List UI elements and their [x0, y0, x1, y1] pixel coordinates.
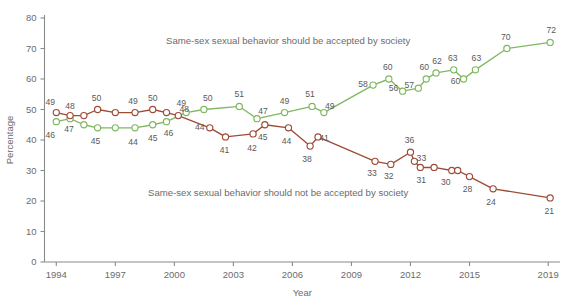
data-point-marker	[236, 103, 242, 109]
x-tick-label: 1994	[46, 269, 67, 280]
x-axis-title: Year	[293, 287, 312, 298]
not-accepted-point-label: 41	[220, 145, 230, 155]
accepted-point-label: 49	[280, 96, 290, 106]
accepted-point-label: 58	[358, 79, 368, 89]
not-accepted-point-label: 21	[544, 206, 554, 216]
data-point-marker	[67, 113, 73, 119]
accepted-point-label: 72	[546, 25, 556, 35]
data-point-marker	[222, 134, 228, 140]
not-accepted-point-label: 30	[441, 177, 451, 187]
not-accepted-point-label: 50	[92, 93, 102, 103]
x-tick-group: 199419972000200320062009201220152019	[46, 262, 559, 280]
data-point-marker	[388, 161, 394, 167]
y-tick-group: 01020304050607080	[26, 12, 45, 267]
not-accepted-point-label: 41	[319, 133, 329, 143]
x-tick-label: 2006	[282, 269, 303, 280]
y-tick-label: 40	[26, 134, 37, 145]
data-point-marker	[307, 143, 313, 149]
accepted-point-label: 70	[501, 32, 511, 42]
data-point-marker	[285, 125, 291, 131]
accepted-point-label: 46	[46, 130, 56, 140]
data-point-marker	[417, 164, 423, 170]
data-point-marker	[466, 174, 472, 180]
not-accepted-point-label: 33	[417, 153, 427, 163]
data-point-marker	[451, 67, 457, 73]
accepted-point-label: 45	[148, 133, 158, 143]
not-accepted-point-label: 28	[463, 184, 473, 194]
data-point-marker	[407, 149, 413, 155]
accepted-point-label: 56	[389, 83, 399, 93]
not-accepted-point-label: 24	[486, 197, 496, 207]
data-point-marker	[112, 125, 118, 131]
accepted-point-label: 62	[432, 56, 442, 66]
y-tick-label: 60	[26, 73, 37, 84]
data-point-marker	[460, 76, 466, 82]
not-accepted-annotation: Same-sex sexual behavior should not be a…	[148, 187, 408, 198]
data-point-marker	[201, 106, 207, 112]
accepted-point-label: 51	[235, 89, 245, 99]
data-point-marker	[370, 82, 376, 88]
y-tick-label: 70	[26, 43, 37, 54]
not-accepted-point-label: 49	[46, 97, 56, 107]
y-tick-label: 10	[26, 226, 37, 237]
data-point-marker	[309, 103, 315, 109]
accepted-point-label: 51	[305, 89, 315, 99]
not-accepted-point-label: 42	[247, 143, 257, 153]
data-point-marker	[262, 122, 268, 128]
accepted-point-label: 47	[64, 124, 74, 134]
data-point-marker	[472, 67, 478, 73]
not-accepted-point-label: 45	[258, 132, 268, 142]
data-point-marker	[490, 186, 496, 192]
data-point-marker	[431, 164, 437, 170]
data-point-marker	[150, 106, 156, 112]
accepted-point-label: 60	[419, 62, 429, 72]
x-tick-label: 2019	[538, 269, 559, 280]
data-point-marker	[95, 125, 101, 131]
not-accepted-point-label: 44	[195, 122, 205, 132]
y-tick-label: 50	[26, 104, 37, 115]
accepted-point-label: 47	[258, 106, 268, 116]
not-accepted-point-label: 31	[417, 175, 427, 185]
data-point-marker	[423, 76, 429, 82]
data-point-marker	[95, 106, 101, 112]
data-point-marker	[254, 116, 260, 122]
data-point-marker	[207, 125, 213, 131]
data-point-marker	[53, 109, 59, 115]
not-accepted-point-label: 32	[384, 171, 394, 181]
y-tick-label: 0	[31, 256, 36, 267]
accepted-point-label: 60	[383, 62, 393, 72]
data-point-marker	[163, 109, 169, 115]
x-axis-group: 199419972000200320062009201220152019	[45, 262, 561, 280]
not-accepted-point-label: 33	[367, 168, 377, 178]
data-point-marker	[386, 76, 392, 82]
data-point-marker	[547, 39, 553, 45]
chart-container: 01020304050607080 1994199720002003200620…	[0, 0, 567, 299]
data-point-marker	[547, 195, 553, 201]
x-tick-label: 2015	[459, 269, 480, 280]
y-axis-group: 01020304050607080	[26, 12, 45, 267]
data-point-marker	[415, 85, 421, 91]
not-accepted-point-label: 48	[180, 104, 190, 114]
data-point-marker	[81, 122, 87, 128]
data-point-marker	[372, 158, 378, 164]
data-point-marker	[455, 167, 461, 173]
not-accepted-point-label: 48	[65, 101, 75, 111]
data-point-marker	[132, 125, 138, 131]
data-point-marker	[81, 113, 87, 119]
x-tick-label: 2000	[164, 269, 185, 280]
data-point-marker	[112, 109, 118, 115]
accepted-point-label: 49	[325, 101, 335, 111]
accepted-point-label: 57	[405, 80, 415, 90]
data-point-marker	[150, 122, 156, 128]
y-tick-label: 80	[26, 12, 37, 23]
x-tick-label: 2009	[341, 269, 362, 280]
data-point-marker	[433, 70, 439, 76]
not-accepted-point-label: 50	[148, 93, 158, 103]
x-tick-label: 1997	[105, 269, 126, 280]
accepted-annotation: Same-sex sexual behavior should be accep…	[166, 35, 410, 46]
data-point-marker	[53, 119, 59, 125]
data-point-marker	[281, 109, 287, 115]
x-tick-label: 2012	[400, 269, 421, 280]
data-point-marker	[163, 119, 169, 125]
y-tick-label: 20	[26, 195, 37, 206]
